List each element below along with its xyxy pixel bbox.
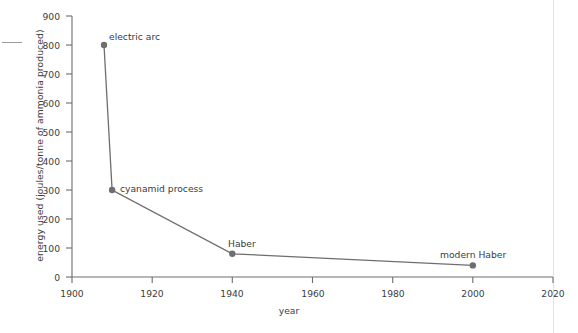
point-label-haber: Haber (228, 238, 256, 249)
data-point-electric-arc[interactable] (101, 42, 107, 48)
y-axis-ticks (66, 16, 72, 277)
data-point-haber[interactable] (229, 251, 235, 257)
plot-area (0, 0, 578, 333)
x-tick-label-1920: 1920 (127, 288, 177, 299)
x-tick-label-2000: 2000 (448, 288, 498, 299)
x-tick-label-1960: 1960 (288, 288, 338, 299)
x-axis-title: year (0, 305, 578, 316)
data-point-cyanamid-process[interactable] (109, 187, 115, 193)
point-label-modern-haber: modern Haber (440, 249, 506, 260)
x-tick-label-1980: 1980 (368, 288, 418, 299)
point-label-electric-arc: electric arc (109, 31, 160, 42)
x-tick-label-1900: 1900 (47, 288, 97, 299)
x-tick-label-1940: 1940 (207, 288, 257, 299)
chart-figure: 900 800 700 600 500 400 300 200 100 0 19… (0, 0, 578, 333)
y-axis-title: energy used (joules/tonne of ammonia pro… (34, 11, 45, 281)
x-tick-label-2020: 2020 (528, 288, 578, 299)
x-axis-ticks (72, 277, 553, 283)
data-point-modern-haber[interactable] (470, 262, 476, 268)
point-label-cyanamid-process: cyanamid process (120, 183, 203, 194)
data-line (104, 45, 473, 265)
